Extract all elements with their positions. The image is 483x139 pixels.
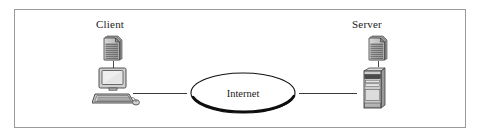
server-label: Server bbox=[352, 18, 382, 30]
server-tower-icon bbox=[362, 66, 392, 112]
client-label: Client bbox=[96, 18, 124, 30]
internet-cloud-label: Internet bbox=[186, 71, 300, 115]
client-node bbox=[92, 35, 144, 108]
diagram-canvas: Client Server Internet bbox=[0, 0, 483, 139]
document-icon bbox=[103, 35, 124, 61]
document-icon bbox=[368, 35, 389, 61]
keyboard-mouse-icon bbox=[92, 88, 142, 108]
link-internet-to-server bbox=[299, 93, 357, 94]
internet-cloud: Internet bbox=[186, 71, 300, 115]
server-node bbox=[358, 35, 398, 111]
